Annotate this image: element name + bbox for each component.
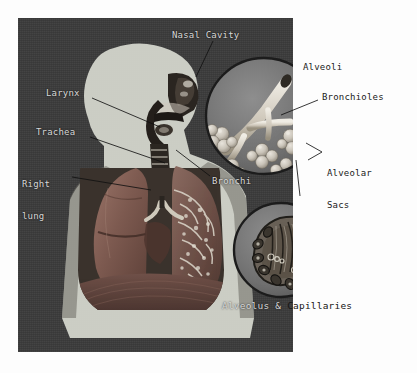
label-alveolar-sacs: Alveolar Sacs xyxy=(327,147,372,231)
label-larynx: Larynx xyxy=(46,88,80,99)
label-alveoli: Alveoli xyxy=(303,62,342,73)
alveoli-bronchioles-inset xyxy=(206,58,293,184)
leader-alveolar-sacs-a xyxy=(306,143,322,152)
label-alveolar-sacs-line1: Alveolar xyxy=(327,168,372,179)
label-alveolar-sacs-line2: Sacs xyxy=(327,200,372,211)
label-right-lung: Right lung xyxy=(22,158,50,242)
respiratory-system-figure: Nasal Cavity Larynx Trachea Right lung B… xyxy=(0,0,417,373)
leader-lower-inset xyxy=(296,160,300,196)
label-bronchi: Bronchi xyxy=(212,176,251,187)
thoracic-cavity xyxy=(72,166,232,320)
label-right-lung-line1: Right xyxy=(22,179,50,190)
caption-part-on-panel: Alveolus & xyxy=(222,300,281,311)
label-right-lung-line2: lung xyxy=(22,211,50,222)
label-bronchioles: Bronchioles xyxy=(322,92,384,103)
label-nasal-cavity: Nasal Cavity xyxy=(172,30,239,41)
inset-caption: Alveolus & Capillaries xyxy=(222,300,352,311)
leader-alveolar-sacs-b xyxy=(308,152,322,160)
label-trachea: Trachea xyxy=(36,127,75,138)
caption-part-capillaries: Capillaries xyxy=(287,300,352,311)
